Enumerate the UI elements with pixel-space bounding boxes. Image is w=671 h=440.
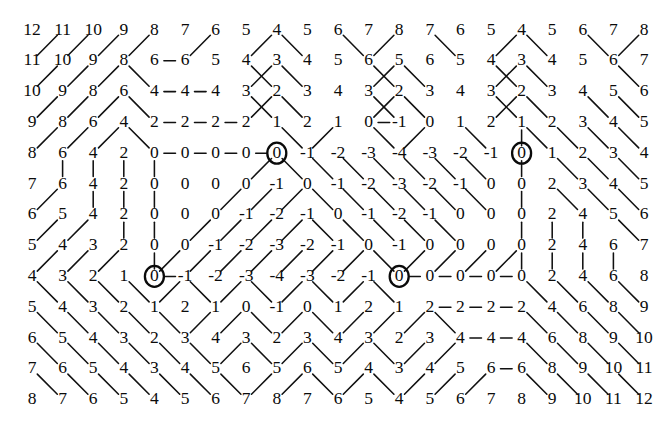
grid-cell: 4 [150,80,159,100]
grid-cell: 6 [425,49,434,69]
grid-cell: -1 [392,234,407,254]
grid-cell: 4 [456,80,465,100]
grid-cell: 7 [640,49,649,69]
flow-edge [37,282,57,302]
flow-edge [221,343,241,363]
grid-cell: 7 [425,19,434,39]
grid-cell: -1 [239,203,254,223]
grid-cell: 2 [487,296,496,316]
grid-cell: 4 [456,327,465,347]
grid-cell: 0 [150,142,159,162]
grid-cell: 5 [578,49,587,69]
grid-cell: 5 [181,388,190,408]
grid-cell: 2 [119,296,128,316]
grid-cell: 5 [272,357,281,377]
grid-cell: 3 [578,173,587,193]
grid-cell: 5 [609,80,618,100]
grid-cell: 0 [517,203,526,223]
grid-cell: 4 [334,327,343,347]
grid-cell: 2 [181,296,190,316]
flow-edge [374,343,394,363]
flow-edge [68,313,88,333]
grid-cell: 1 [334,296,343,316]
flow-edge [129,313,149,333]
flow-edge [251,343,271,363]
grid-cell: 2 [456,296,465,316]
grid-cell: 3 [548,80,557,100]
grid-cell: 0 [303,173,312,193]
flow-edge [343,159,363,179]
grid-cell: 0 [364,234,373,254]
grid-cell: 2 [119,234,128,254]
flow-edge [98,343,118,363]
flow-edge [190,374,210,394]
flow-edge [98,66,118,86]
flow-edge [435,159,455,179]
grid-cell: 10 [605,357,623,377]
flow-edge [251,189,271,209]
grid-cell: 1 [334,111,343,131]
flow-edge [343,189,363,209]
grid-cell: 4 [89,173,98,193]
grid-cell: 6 [609,49,618,69]
flow-edge [343,35,363,55]
grid-cell: 2 [548,265,557,285]
grid-cell: -1 [484,142,499,162]
flow-edge [619,282,639,302]
flow-edge [404,251,424,271]
grid-cell: 0 [487,173,496,193]
grid-cell: 9 [119,19,128,39]
grid-cell: 6 [89,388,98,408]
grid-cell: 3 [89,234,98,254]
grid-cell: -1 [208,234,223,254]
grid-cell: 1 [119,265,128,285]
flow-edge [527,313,547,333]
grid-cell: 11 [636,357,653,377]
flow-edge [496,35,516,55]
grid-cell: -1 [361,265,376,285]
grid-cell: 0 [181,142,190,162]
flow-edge [282,189,302,209]
grid-cell: 0 [517,234,526,254]
grid-cell: 4 [211,327,220,347]
flow-edge [435,35,455,55]
grid-cell: 2 [395,80,404,100]
grid-cell-minimum: 0 [150,265,159,285]
grid-cell: 6 [28,203,37,223]
grid-cell: 4 [487,49,496,69]
grid-cell: 4 [548,296,557,316]
grid-cell: 1 [150,296,159,316]
flow-edge [129,374,149,394]
flow-edge [68,128,88,148]
flow-edge [251,313,271,333]
grid-cell: 6 [609,265,618,285]
flow-edge [404,374,424,394]
grid-cell: 5 [119,388,128,408]
grid-cell: 4 [395,388,404,408]
flow-edge [404,220,424,240]
grid-cell: 2 [272,80,281,100]
flow-edge [251,159,271,179]
grid-cell: 3 [303,80,312,100]
flow-edge [129,128,149,148]
grid-cell: 3 [242,327,251,347]
flow-edge [98,313,118,333]
flow-edge [619,189,639,209]
grid-cell: 2 [303,111,312,131]
flow-edge [251,220,271,240]
diagram-canvas: 1211109876545678765456781110986654345656… [0,0,671,440]
grid-cell: 6 [211,388,220,408]
flow-edge [527,35,547,55]
grid-cell: 6 [456,388,465,408]
flow-edge [129,66,149,86]
grid-cell: 7 [640,234,649,254]
grid-cell: 4 [425,357,434,377]
flow-edge [435,220,455,240]
flow-edge [588,35,608,55]
grid-cell: 2 [89,265,98,285]
flow-edge [404,159,424,179]
grid-cell-minimum: 0 [395,265,404,285]
grid-cell: 2 [517,80,526,100]
grid-cell: 0 [150,234,159,254]
grid-cell: 3 [578,111,587,131]
